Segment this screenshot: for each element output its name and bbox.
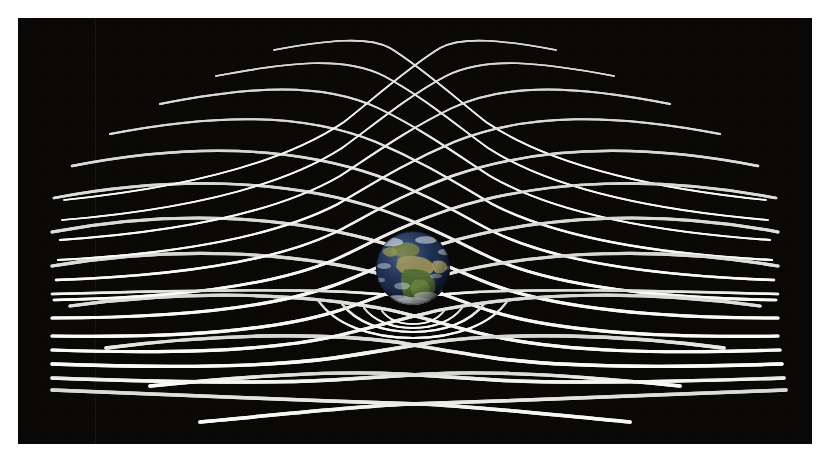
spacetime-grid [18, 18, 812, 444]
figure-root: A white grid representing the fabric of … [0, 0, 831, 466]
space-background-plate [18, 18, 812, 444]
